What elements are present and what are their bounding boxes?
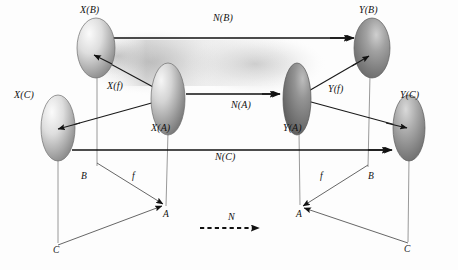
- label-base-left-b: B: [81, 172, 87, 182]
- label-y-f: Y(f): [328, 84, 343, 94]
- label-y-b: Y(B): [359, 5, 378, 15]
- base-right-edge-c-to-a: [304, 208, 408, 243]
- label-base-right-a: A: [296, 210, 302, 220]
- label-n-middle: N: [228, 212, 235, 222]
- base-left-edge-c-to-a: [58, 206, 162, 245]
- label-x-b: X(B): [80, 5, 99, 15]
- label-base-left-f: f: [132, 172, 135, 182]
- label-base-right-f: f: [320, 172, 323, 182]
- ellipse-y-b: [354, 18, 390, 78]
- label-base-right-c: C: [404, 245, 410, 255]
- label-x-a: X(A): [151, 123, 170, 133]
- base-triangle-left: [58, 163, 163, 245]
- label-y-a: Y(A): [283, 123, 302, 133]
- diagram-canvas: X(B) X(C) X(A) X(f) Y(B) Y(C) Y(A) Y(f) …: [0, 0, 458, 270]
- ellipse-y-c: [393, 95, 425, 161]
- label-x-c: X(C): [14, 90, 34, 100]
- projection-line-yb: [368, 75, 370, 167]
- label-x-f: X(f): [107, 81, 123, 91]
- label-base-right-b: B: [368, 172, 374, 182]
- base-right-edge-b-to-a: [303, 165, 368, 206]
- ellipse-x-b: [77, 18, 115, 78]
- label-n-a: N(A): [231, 100, 251, 110]
- label-base-left-a: A: [163, 210, 169, 220]
- projection-line-yc: [408, 158, 409, 242]
- haze-band: [108, 40, 298, 86]
- ellipse-x-c: [41, 95, 75, 161]
- label-n-b: N(B): [213, 13, 233, 23]
- diagram-svg: [0, 0, 458, 270]
- base-left-edge-b-to-a: [97, 163, 163, 204]
- label-n-c: N(C): [215, 152, 235, 162]
- label-y-c: Y(C): [400, 90, 419, 100]
- projection-line-xa: [166, 132, 168, 206]
- label-base-left-c: C: [53, 246, 59, 256]
- projection-line-ya: [299, 132, 300, 205]
- base-triangle-right: [303, 165, 408, 243]
